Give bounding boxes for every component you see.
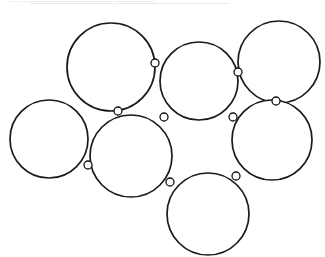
circle-top-left[interactable]: [67, 23, 155, 111]
joint-a-d[interactable]: [151, 59, 159, 67]
circle-packing-diagram: [0, 0, 325, 257]
diagram-canvas: —— —————————————— —— ————: [0, 0, 325, 257]
joint-c-d[interactable]: [160, 113, 168, 121]
circle-left[interactable]: [10, 100, 88, 178]
circle-right[interactable]: [232, 100, 312, 180]
joint-c-g[interactable]: [166, 178, 174, 186]
joint-d-e[interactable]: [234, 68, 242, 76]
circle-top-right[interactable]: [238, 21, 320, 103]
circle-center[interactable]: [160, 42, 238, 120]
joint-f-g[interactable]: [232, 172, 240, 180]
joint-a-c[interactable]: [114, 107, 122, 115]
joint-d-f[interactable]: [229, 113, 237, 121]
joint-b-c[interactable]: [84, 161, 92, 169]
circle-center-left[interactable]: [90, 115, 172, 197]
circles-layer: [10, 21, 320, 255]
circle-bottom-center[interactable]: [167, 173, 249, 255]
joint-e-f[interactable]: [272, 97, 280, 105]
